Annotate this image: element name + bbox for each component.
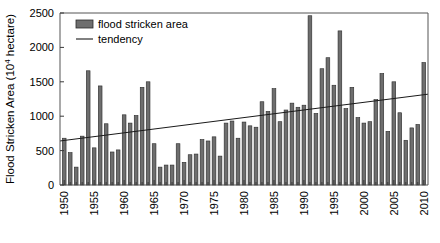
y-axis-tick-labels: 05001000150020002500 — [30, 7, 54, 191]
y-tick-label-1000: 1000 — [30, 110, 54, 122]
bar-1957 — [104, 124, 108, 185]
bar-2005 — [392, 82, 396, 185]
bar-1964 — [146, 82, 150, 185]
x-tick-label-1970: 1970 — [178, 191, 190, 215]
y-axis-title-suffix: hectare) — [4, 14, 16, 60]
bar-1954 — [86, 71, 90, 185]
bar-1990 — [302, 105, 306, 185]
y-tick-label-2500: 2500 — [30, 7, 54, 19]
bar-1962 — [134, 116, 138, 185]
bar-2002 — [374, 100, 378, 185]
bar-1972 — [194, 154, 198, 185]
x-tick-label-1980: 1980 — [238, 191, 250, 215]
bar-1987 — [284, 110, 288, 185]
x-axis-tick-labels: 1950195519601965197019751980198519901995… — [58, 191, 430, 215]
bar-1951 — [68, 153, 72, 185]
bar-1999 — [356, 118, 360, 185]
bar-2008 — [410, 128, 414, 185]
bar-1979 — [236, 138, 240, 185]
bar-1995 — [332, 85, 336, 185]
bar-2000 — [362, 123, 366, 185]
bar-2007 — [404, 140, 408, 185]
bar-1955 — [92, 148, 96, 185]
bar-1950 — [62, 138, 66, 185]
bar-1965 — [152, 144, 156, 185]
x-tick-label-1990: 1990 — [298, 191, 310, 215]
x-tick-label-2010: 2010 — [418, 191, 430, 215]
bar-1980 — [242, 122, 246, 185]
bar-1973 — [200, 140, 204, 185]
y-axis-title-text: Flood Stricken Area (104 hectare) — [3, 14, 17, 184]
bar-1997 — [344, 109, 348, 185]
bar-1975 — [212, 137, 216, 185]
legend-label-flood-stricken-area: flood stricken area — [98, 18, 189, 30]
bar-1960 — [122, 115, 126, 185]
bar-2010 — [422, 63, 426, 185]
bar-2004 — [386, 131, 390, 185]
bar-1963 — [140, 87, 144, 185]
bar-1978 — [230, 121, 234, 185]
bar-1988 — [290, 103, 294, 185]
bar-1971 — [188, 155, 192, 185]
flood-stricken-area-chart: 05001000150020002500 1950195519601965197… — [0, 0, 440, 243]
x-tick-label-2000: 2000 — [358, 191, 370, 215]
x-tick-label-1965: 1965 — [148, 191, 160, 215]
x-tick-label-1985: 1985 — [268, 191, 280, 215]
bar-1953 — [80, 136, 84, 185]
bar-1992 — [314, 113, 318, 185]
y-tick-label-500: 500 — [36, 145, 54, 157]
legend-label-tendency: tendency — [98, 33, 143, 45]
x-tick-label-1950: 1950 — [58, 191, 70, 215]
x-tick-label-2005: 2005 — [388, 191, 400, 215]
bar-2009 — [416, 124, 420, 185]
bar-1983 — [260, 102, 264, 185]
y-tick-label-2000: 2000 — [30, 41, 54, 53]
x-tick-label-1955: 1955 — [88, 191, 100, 215]
bar-1976 — [218, 156, 222, 185]
bar-2003 — [380, 74, 384, 185]
y-tick-label-1500: 1500 — [30, 76, 54, 88]
bar-1982 — [254, 127, 258, 185]
bar-1998 — [350, 87, 354, 185]
bar-1993 — [320, 69, 324, 185]
bar-1981 — [248, 126, 252, 185]
chart-canvas: 05001000150020002500 1950195519601965197… — [0, 0, 440, 243]
bar-2001 — [368, 122, 372, 185]
x-tick-label-1960: 1960 — [118, 191, 130, 215]
bar-1958 — [110, 152, 114, 185]
y-axis-title-prefix: Flood Stricken Area (10 — [4, 64, 16, 184]
bar-1986 — [278, 122, 282, 185]
bar-1974 — [206, 141, 210, 185]
bar-2006 — [398, 113, 402, 185]
bar-1985 — [272, 89, 276, 185]
y-axis-title: Flood Stricken Area (104 hectare) — [3, 14, 17, 184]
bar-1989 — [296, 107, 300, 185]
bar-1959 — [116, 150, 120, 185]
bar-1996 — [338, 31, 342, 185]
bar-1984 — [266, 111, 270, 185]
bar-1969 — [176, 144, 180, 185]
legend-swatch-flood-stricken-area — [76, 20, 93, 28]
bar-1994 — [326, 58, 330, 185]
bar-1991 — [308, 16, 312, 185]
y-tick-label-0: 0 — [48, 179, 54, 191]
x-tick-label-1995: 1995 — [328, 191, 340, 215]
bar-1977 — [224, 123, 228, 185]
x-tick-label-1975: 1975 — [208, 191, 220, 215]
